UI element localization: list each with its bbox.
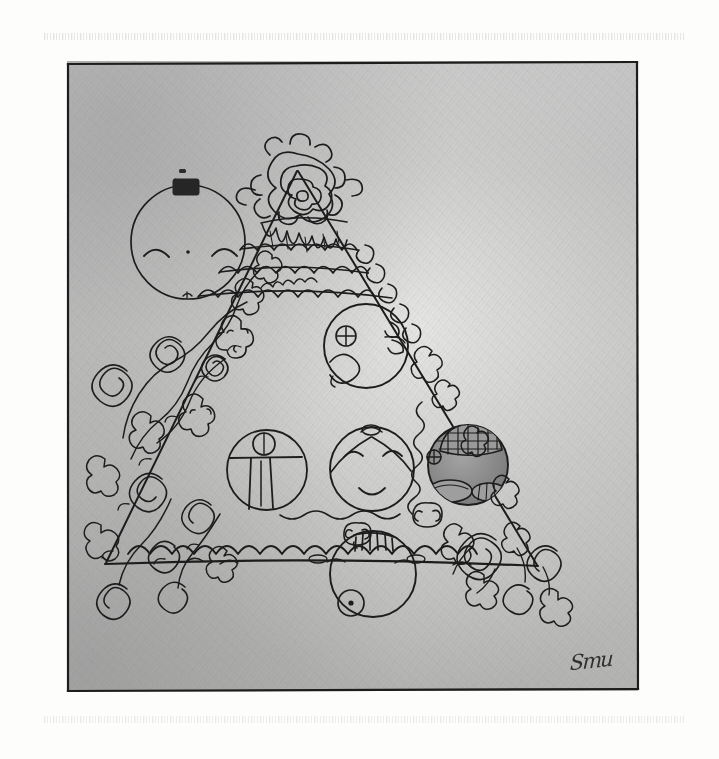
scan-artifact-bottom-band bbox=[44, 716, 684, 723]
paper-grain bbox=[65, 59, 640, 693]
artwork-frame: Smu bbox=[65, 59, 640, 693]
drawing-surface bbox=[65, 59, 640, 693]
scan-artifact-top-band bbox=[44, 33, 684, 40]
moon-face-tab bbox=[173, 179, 199, 195]
scanned-page: Smu bbox=[0, 0, 719, 759]
artist-signature: Smu bbox=[570, 647, 612, 676]
